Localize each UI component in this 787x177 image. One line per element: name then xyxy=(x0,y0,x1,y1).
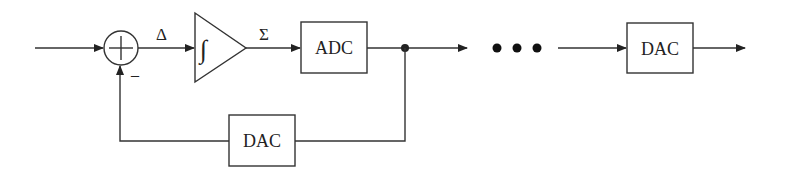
feedback-dac-label: DAC xyxy=(243,131,281,151)
feedback-dac-block: DAC xyxy=(229,115,295,166)
delta-sigma-block-diagram: – Δ ∫ Σ ADC DAC DAC xyxy=(0,0,787,177)
ellipsis xyxy=(493,44,542,53)
ellipsis-dot xyxy=(533,44,542,53)
integrator-block: ∫ xyxy=(195,13,246,82)
adc-block: ADC xyxy=(301,22,367,73)
summing-node xyxy=(104,31,138,65)
minus-sign-label: – xyxy=(130,66,140,83)
ellipsis-dot xyxy=(493,44,502,53)
ellipsis-dot xyxy=(513,44,522,53)
adc-label: ADC xyxy=(315,38,353,58)
output-dac-label: DAC xyxy=(641,39,679,59)
delta-label: Δ xyxy=(156,25,167,44)
output-dac-block: DAC xyxy=(627,23,693,73)
sigma-label: Σ xyxy=(259,25,269,44)
